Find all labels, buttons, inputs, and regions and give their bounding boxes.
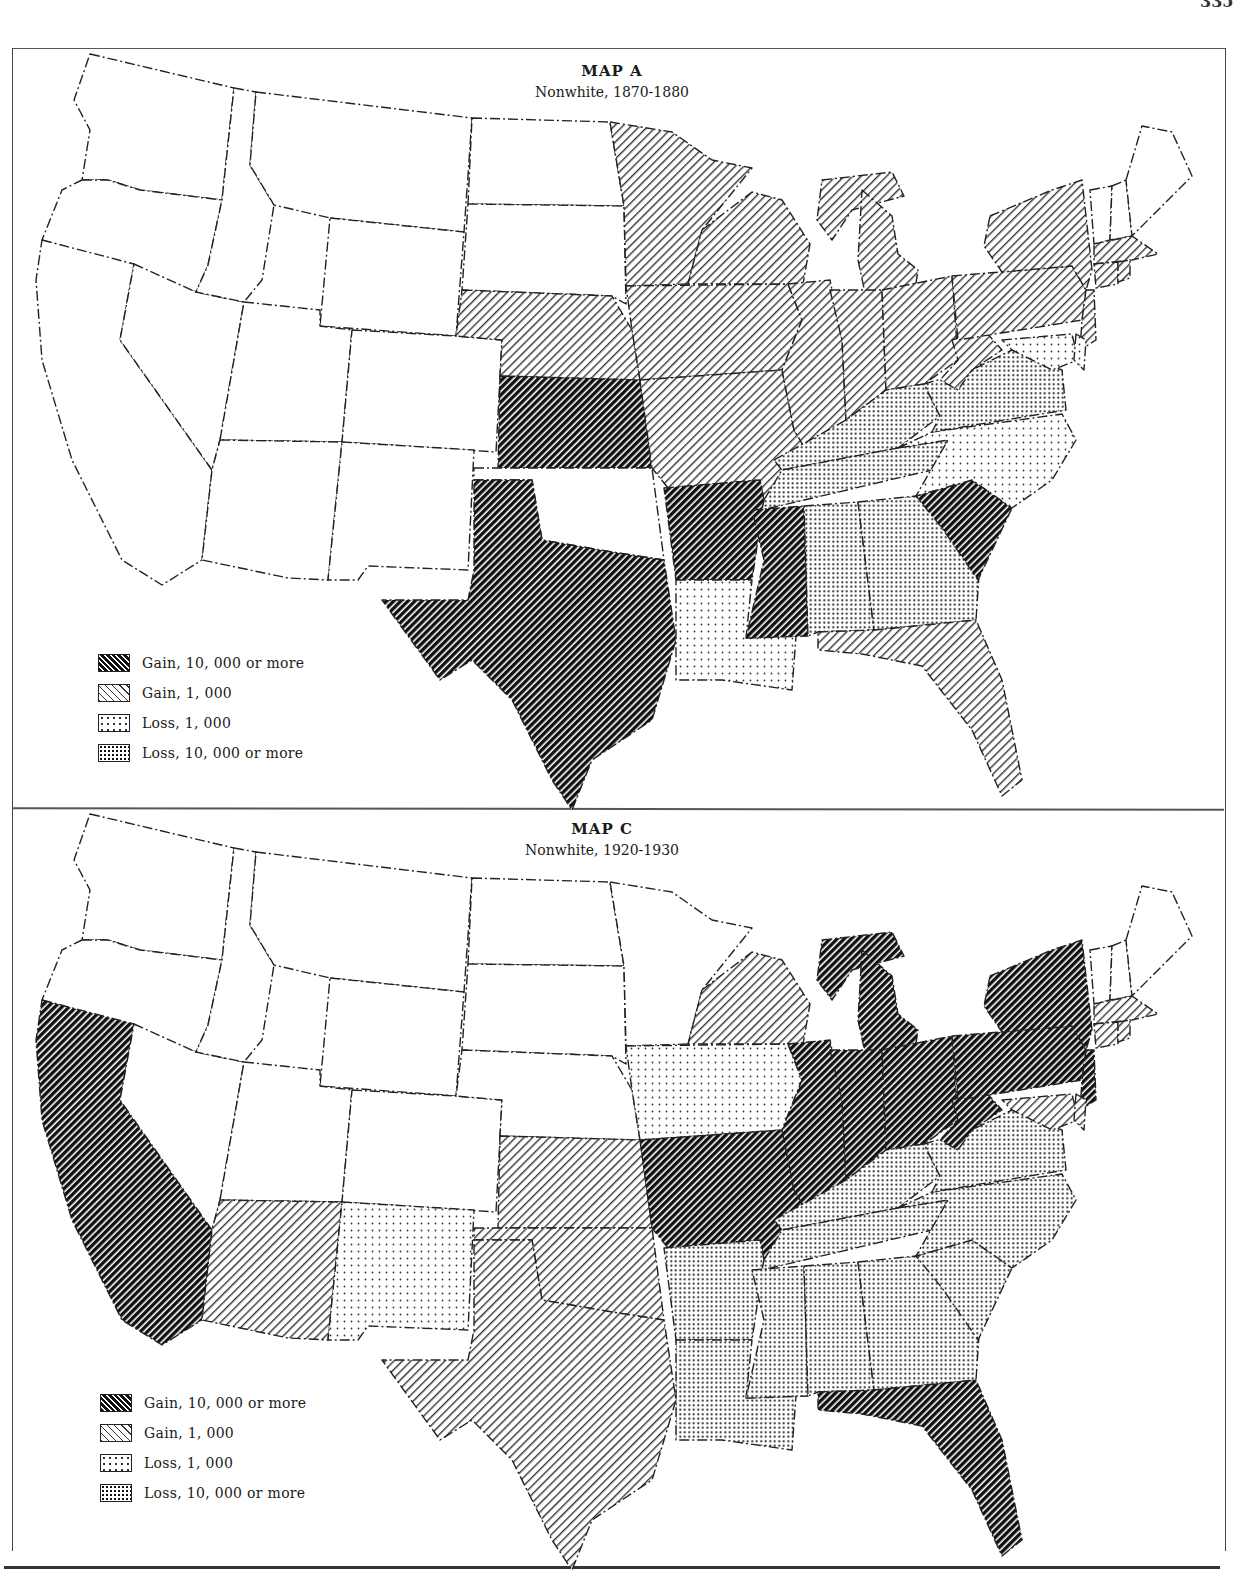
state-co: [342, 330, 502, 452]
state-vt: [1090, 946, 1112, 1004]
state-fl: [818, 620, 1022, 796]
state-pa: [952, 1026, 1086, 1100]
legend-label: Loss, 1, 000: [144, 1455, 233, 1471]
state-co: [342, 1090, 502, 1212]
state-ri: [1118, 1020, 1130, 1042]
map-subtitle-text: Nonwhite, 1870-1880: [462, 84, 762, 100]
map-title-text: MAP A: [462, 62, 762, 80]
state-ct: [1094, 262, 1118, 288]
state-me: [1126, 126, 1192, 236]
loss-low-swatch-icon: [100, 1454, 132, 1472]
legend-label: Gain, 1, 000: [142, 685, 232, 701]
map-subtitle-text: Nonwhite, 1920-1930: [452, 842, 752, 858]
state-ks: [498, 376, 652, 468]
map-a-legend: Gain, 10, 000 or more Gain, 1, 000 Loss,…: [98, 648, 304, 768]
state-nm: [328, 1202, 474, 1340]
state-ri: [1118, 260, 1130, 282]
legend-label: Gain, 1, 000: [144, 1425, 234, 1441]
page-number: 335: [1200, 0, 1233, 11]
state-me: [1126, 886, 1192, 996]
gain-high-swatch-icon: [98, 654, 130, 672]
legend-label: Loss, 10, 000 or more: [142, 745, 303, 761]
map-c-panel: MAP C Nonwhite, 1920-1930 Gain, 10, 000 …: [12, 800, 1224, 1570]
legend-item-gain-low: Gain, 1, 000: [98, 678, 304, 708]
state-fl: [818, 1380, 1022, 1556]
loss-high-swatch-icon: [98, 744, 130, 762]
state-ct: [1094, 1022, 1118, 1048]
state-ks: [498, 1136, 652, 1228]
state-wy: [320, 218, 464, 336]
gain-high-swatch-icon: [100, 1394, 132, 1412]
state-ia: [626, 1044, 802, 1140]
loss-high-swatch-icon: [100, 1484, 132, 1502]
state-ar: [664, 480, 764, 580]
state-nd: [468, 878, 624, 966]
legend-label: Loss, 1, 000: [142, 715, 231, 731]
map-a-title: MAP A Nonwhite, 1870-1880: [462, 62, 762, 100]
legend-item-gain-low: Gain, 1, 000: [100, 1418, 306, 1448]
state-wa: [74, 54, 234, 200]
legend-item-loss-high: Loss, 10, 000 or more: [98, 738, 304, 768]
legend-item-gain-high: Gain, 10, 000 or more: [100, 1388, 306, 1418]
map-c-legend: Gain, 10, 000 or more Gain, 1, 000 Loss,…: [100, 1388, 306, 1508]
legend-label: Loss, 10, 000 or more: [144, 1485, 305, 1501]
state-az: [202, 1200, 342, 1340]
state-sd: [462, 204, 626, 304]
gain-low-swatch-icon: [98, 684, 130, 702]
legend-label: Gain, 10, 000 or more: [144, 1395, 306, 1411]
legend-item-loss-high: Loss, 10, 000 or more: [100, 1478, 306, 1508]
legend-item-loss-low: Loss, 1, 000: [100, 1448, 306, 1478]
state-de: [1074, 334, 1086, 370]
gain-low-swatch-icon: [100, 1424, 132, 1442]
state-pa: [952, 266, 1086, 340]
state-mt: [250, 852, 472, 992]
state-mt: [250, 92, 472, 232]
state-wy: [320, 978, 464, 1096]
state-ia: [626, 284, 802, 380]
state-nd: [468, 118, 624, 206]
state-sd: [462, 964, 626, 1064]
legend-item-gain-high: Gain, 10, 000 or more: [98, 648, 304, 678]
state-de: [1074, 1094, 1086, 1130]
map-title-text: MAP C: [452, 820, 752, 838]
state-wa: [74, 814, 234, 960]
state-nm: [328, 442, 474, 580]
state-ar: [664, 1240, 764, 1340]
state-vt: [1090, 186, 1112, 244]
map-a-panel: MAP A Nonwhite, 1870-1880 Gain, 10, 000 …: [12, 40, 1224, 810]
state-az: [202, 440, 342, 580]
legend-label: Gain, 10, 000 or more: [142, 655, 304, 671]
legend-item-loss-low: Loss, 1, 000: [98, 708, 304, 738]
loss-low-swatch-icon: [98, 714, 130, 732]
map-c-title: MAP C Nonwhite, 1920-1930: [452, 820, 752, 858]
